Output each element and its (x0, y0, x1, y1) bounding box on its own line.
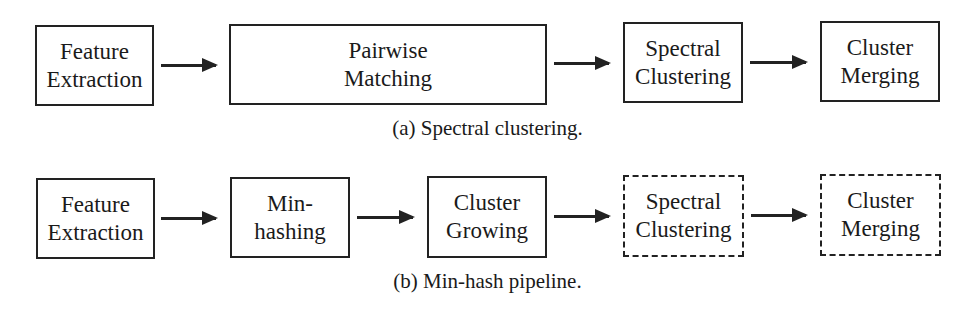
node-label: Feature (60, 38, 129, 66)
arrow-icon (751, 214, 806, 217)
node-label: Merging (841, 62, 920, 90)
node-label: Cluster (454, 189, 520, 217)
node-label: Matching (344, 65, 432, 93)
node-label: Feature (61, 191, 130, 219)
node-a-feature-extraction: Feature Extraction (35, 25, 154, 106)
node-label: Pairwise (348, 37, 427, 65)
node-b-cluster-merging: Cluster Merging (820, 174, 941, 256)
node-label: Cluster (847, 34, 913, 62)
arrow-icon (161, 64, 216, 67)
node-a-cluster-merging: Cluster Merging (820, 21, 940, 102)
node-label: Merging (841, 215, 920, 243)
node-label: Cluster (847, 187, 913, 215)
arrow-icon (357, 216, 413, 219)
node-label: Clustering (635, 63, 731, 91)
node-b-spectral-clustering: Spectral Clustering (623, 175, 744, 257)
arrow-icon (750, 61, 806, 64)
arrow-icon (554, 215, 609, 218)
node-b-feature-extraction: Feature Extraction (36, 178, 155, 259)
caption-b: (b) Min-hash pipeline. (0, 269, 975, 294)
node-label: Min- (267, 190, 313, 218)
node-b-cluster-growing: Cluster Growing (427, 176, 547, 258)
node-label: Spectral (645, 35, 720, 63)
node-label: Extraction (48, 219, 144, 247)
node-a-spectral-clustering: Spectral Clustering (623, 22, 743, 103)
node-label: Extraction (47, 66, 143, 94)
node-label: Clustering (636, 216, 732, 244)
node-a-pairwise-matching: Pairwise Matching (229, 24, 547, 105)
node-b-min-hashing: Min- hashing (230, 177, 350, 258)
caption-a: (a) Spectral clustering. (0, 116, 975, 141)
arrow-icon (554, 62, 609, 65)
node-label: Spectral (646, 188, 721, 216)
node-label: Growing (446, 217, 528, 245)
node-label: hashing (254, 218, 326, 246)
arrow-icon (161, 217, 216, 220)
